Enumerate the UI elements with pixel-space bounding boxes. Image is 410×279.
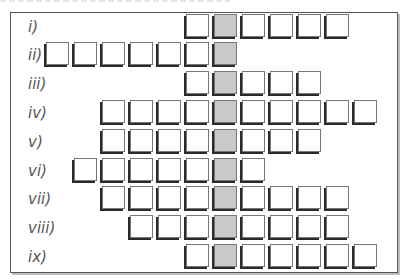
grid-cell (130, 186, 153, 209)
grid-cell (158, 129, 181, 152)
grid-cell (130, 129, 153, 152)
grid-cell (158, 100, 181, 123)
highlighted-grid-cell (214, 186, 237, 209)
grid-cell (326, 100, 349, 123)
grid-cell (242, 215, 265, 238)
highlighted-grid-cell (214, 244, 237, 267)
grid-cell (74, 42, 97, 65)
grid-cell (74, 158, 97, 181)
highlighted-grid-cell (214, 158, 237, 181)
grid-cell (270, 129, 293, 152)
grid-cell (102, 186, 125, 209)
grid-cell (270, 215, 293, 238)
row-label: iii) (28, 71, 46, 97)
grid-cell (186, 129, 209, 152)
highlighted-grid-cell (214, 215, 237, 238)
grid-cell (270, 14, 293, 37)
highlighted-grid-cell (214, 14, 237, 37)
grid-cell (298, 14, 321, 37)
grid-cell (298, 215, 321, 238)
grid-cell (270, 244, 293, 267)
grid-cell (102, 100, 125, 123)
grid-cell (242, 158, 265, 181)
grid-cell (186, 100, 209, 123)
grid-cell (186, 158, 209, 181)
grid-cell (326, 244, 349, 267)
grid-cell (186, 186, 209, 209)
grid-cell (186, 215, 209, 238)
grid-cell (298, 244, 321, 267)
row-label: ii) (28, 42, 42, 68)
grid-cell (102, 129, 125, 152)
grid-cell (46, 42, 69, 65)
highlighted-grid-cell (214, 100, 237, 123)
grid-cell (158, 215, 181, 238)
grid-cell (270, 71, 293, 94)
row-label: vi) (28, 158, 47, 184)
grid-cell (326, 186, 349, 209)
grid-cell (130, 215, 153, 238)
cropped-caption-text (0, 0, 230, 2)
grid-cell (158, 186, 181, 209)
grid-cell (102, 158, 125, 181)
grid-cell (186, 42, 209, 65)
grid-cell (298, 71, 321, 94)
grid-cell (130, 158, 153, 181)
grid-cell (242, 71, 265, 94)
grid-cell (326, 215, 349, 238)
grid-cell (298, 100, 321, 123)
grid-cell (298, 186, 321, 209)
row-label: viii) (28, 215, 55, 241)
grid-cell (186, 244, 209, 267)
grid-cell (242, 244, 265, 267)
grid-cell (158, 42, 181, 65)
grid-cell (186, 14, 209, 37)
grid-cell (242, 186, 265, 209)
grid-cell (270, 100, 293, 123)
grid-cell (270, 186, 293, 209)
grid-cell (130, 100, 153, 123)
grid-cell (102, 42, 125, 65)
grid-cell (354, 100, 377, 123)
grid-cell (326, 14, 349, 37)
grid-cell (242, 129, 265, 152)
row-label: iv) (28, 100, 47, 126)
grid-cell (242, 14, 265, 37)
row-label: i) (28, 14, 38, 40)
grid-cell (354, 244, 377, 267)
highlighted-grid-cell (214, 42, 237, 65)
grid-cell (242, 100, 265, 123)
row-label: vii) (28, 186, 51, 212)
highlighted-grid-cell (214, 71, 237, 94)
grid-cell (298, 129, 321, 152)
row-label: v) (28, 129, 43, 155)
grid-cell (130, 42, 153, 65)
highlighted-grid-cell (214, 129, 237, 152)
diagram-frame: i)ii)iii)iv)v)vi)vii)viii)ix) (10, 12, 398, 273)
grid-cell (186, 71, 209, 94)
row-label: ix) (28, 244, 47, 270)
grid-cell (158, 158, 181, 181)
